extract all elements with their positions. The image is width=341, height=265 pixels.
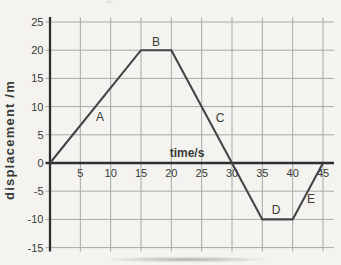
y-tick-label: 15 bbox=[31, 72, 43, 84]
segment-label-D: D bbox=[272, 203, 281, 217]
grid bbox=[46, 18, 335, 252]
y-tick-label: 0 bbox=[37, 157, 43, 169]
x-tick-label: 35 bbox=[256, 167, 268, 179]
segment-label-B: B bbox=[152, 35, 160, 49]
displacement-time-graph-figure: 2520151050-5-10-1551015202530354045time/… bbox=[0, 0, 341, 265]
y-tick-label: 25 bbox=[31, 16, 43, 28]
y-tick-label: 5 bbox=[37, 129, 43, 141]
x-tick-label: 15 bbox=[135, 167, 147, 179]
segment-label-C: C bbox=[216, 111, 225, 125]
x-tick-label: 20 bbox=[165, 167, 177, 179]
displacement-time-chart: 2520151050-5-10-1551015202530354045time/… bbox=[0, 0, 341, 265]
y-tick-label: 20 bbox=[31, 44, 43, 56]
y-axis-title: displacement /m bbox=[2, 80, 17, 200]
x-tick-label: 10 bbox=[105, 167, 117, 179]
x-tick-label: 5 bbox=[77, 167, 83, 179]
x-tick-label: 25 bbox=[196, 167, 208, 179]
y-tick-label: -5 bbox=[34, 185, 44, 197]
x-axis-title: time/s bbox=[170, 146, 205, 160]
y-tick-label: -10 bbox=[28, 213, 44, 225]
x-tick-label: 40 bbox=[287, 167, 299, 179]
y-tick-label: 10 bbox=[31, 101, 43, 113]
segment-label-E: E bbox=[307, 192, 315, 206]
segment-label-A: A bbox=[96, 110, 104, 124]
y-tick-label: -15 bbox=[28, 242, 44, 254]
